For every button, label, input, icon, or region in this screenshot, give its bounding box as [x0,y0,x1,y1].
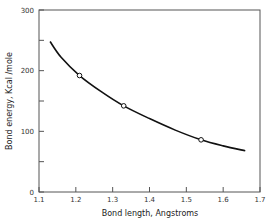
x-tick-label: 1.3 [107,196,118,204]
x-tick-label: 1.6 [218,196,230,204]
data-point-marker [199,138,204,143]
x-axis-label: Bond length, Angstroms [102,209,199,218]
axes: 01002003001.11.21.31.41.51.61.7 [21,7,266,205]
plot-frame [39,10,260,192]
x-tick-label: 1.2 [70,196,81,204]
x-tick-label: 1.1 [33,196,44,204]
y-tick-label: 300 [21,7,34,15]
x-tick-label: 1.5 [181,196,192,204]
y-axis-label: Bond energy, Kcal /mole [5,52,14,150]
y-tick-label: 200 [21,67,34,75]
bond-energy-chart: 01002003001.11.21.31.41.51.61.7 Bond len… [0,0,273,223]
data-point-marker [77,73,82,78]
bond-energy-curve [50,42,245,151]
y-tick-label: 100 [21,128,34,136]
plot-area [50,42,245,151]
data-point-marker [121,104,126,109]
x-tick-label: 1.7 [254,196,265,204]
x-tick-label: 1.4 [144,196,156,204]
